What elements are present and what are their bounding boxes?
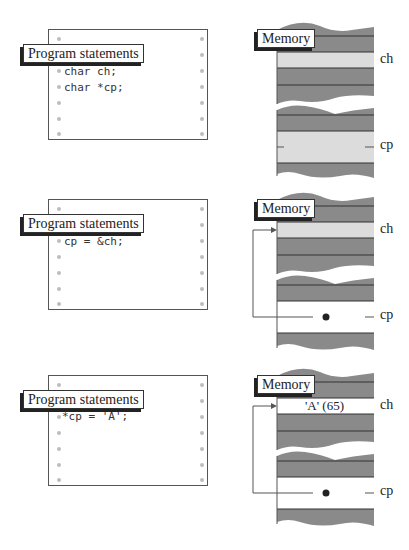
- ch-label: ch: [380, 221, 393, 237]
- cp-label: cp: [380, 483, 393, 499]
- memory-label: Memory: [257, 199, 315, 218]
- panel-dereference-assign: Program statements *cp = 'A'; Memory 'A'…: [0, 356, 409, 550]
- panel-declaration: Program statements char ch; char *cp; Me…: [0, 0, 409, 180]
- cp-label: cp: [380, 307, 393, 323]
- panel-assign-address: Program statements cp = &ch; Memory ch c…: [0, 178, 409, 358]
- ch-label: ch: [380, 397, 393, 413]
- ch-label: ch: [380, 51, 393, 67]
- ch-value: 'A' (65): [305, 398, 344, 414]
- memory-label: Memory: [257, 29, 315, 48]
- cp-label: cp: [380, 137, 393, 153]
- memory-diagram: [0, 178, 409, 358]
- memory-diagram: [0, 356, 409, 550]
- memory-label: Memory: [257, 375, 315, 394]
- memory-diagram: [0, 0, 409, 180]
